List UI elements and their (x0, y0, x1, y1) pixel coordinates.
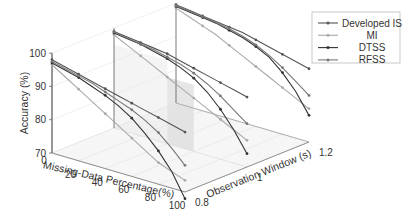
series-line (176, 6, 309, 115)
legend-marker (327, 46, 330, 49)
z-axis-label: Accuracy (%) (18, 72, 30, 134)
data-point (175, 4, 178, 7)
data-point (246, 96, 249, 99)
data-point (113, 31, 116, 34)
data-point (104, 91, 107, 94)
data-point (281, 66, 284, 69)
data-point (130, 102, 133, 105)
data-point (192, 97, 195, 100)
data-point (281, 53, 284, 56)
legend-label: MI (366, 30, 377, 41)
legend-marker (327, 34, 330, 37)
data-point (219, 81, 222, 84)
data-point (104, 112, 107, 115)
data-point (157, 161, 160, 164)
data-point (201, 15, 204, 18)
z-tick-label: 90 (35, 81, 47, 92)
data-point (104, 94, 107, 97)
data-point (246, 122, 249, 125)
data-point (130, 117, 133, 120)
data-point (281, 71, 284, 74)
data-point (308, 94, 311, 97)
data-point (308, 67, 311, 70)
data-point (219, 108, 222, 111)
data-point (184, 131, 187, 134)
data-point (104, 87, 107, 90)
data-point (166, 76, 169, 79)
legend: Developed ISMIDTSSRFSS (312, 12, 402, 65)
data-point (130, 137, 133, 140)
data-point (254, 65, 257, 68)
data-point (246, 139, 249, 142)
data-point (139, 54, 142, 57)
data-point (130, 108, 133, 111)
data-point (51, 60, 54, 63)
data-point (246, 152, 249, 155)
data-point (281, 86, 284, 89)
data-point (184, 179, 187, 182)
data-point (192, 72, 195, 75)
z-tick-label: 80 (35, 114, 47, 125)
data-point (308, 114, 311, 117)
data-point (192, 67, 195, 70)
data-point (166, 56, 169, 59)
data-point (157, 116, 160, 119)
data-point (219, 95, 222, 98)
legend-label: RFSS (359, 54, 386, 65)
legend-marker (327, 58, 330, 61)
data-point (157, 150, 160, 153)
window-tick-label: 0.8 (195, 197, 209, 208)
legend-label: DTSS (359, 42, 386, 53)
data-point (228, 44, 231, 47)
data-point (219, 118, 222, 121)
data-point (77, 88, 80, 91)
data-point (201, 24, 204, 27)
data-point (77, 74, 80, 77)
z-tick-label: 100 (29, 48, 46, 59)
data-point (308, 107, 311, 110)
legend-marker (327, 22, 330, 25)
data-point (139, 42, 142, 45)
data-point (254, 43, 257, 46)
data-point (192, 77, 195, 80)
data-point (166, 52, 169, 55)
x-tick-label: 100 (169, 200, 186, 210)
data-point (157, 131, 160, 134)
accuracy-3d-chart: 7080901000204060801000.811.2 Accuracy (%… (0, 0, 420, 210)
legend-label: Developed IS (342, 18, 402, 29)
data-point (254, 38, 257, 41)
window-tick-label: 1.2 (319, 147, 333, 158)
data-point (228, 27, 231, 30)
data-point (184, 164, 187, 167)
